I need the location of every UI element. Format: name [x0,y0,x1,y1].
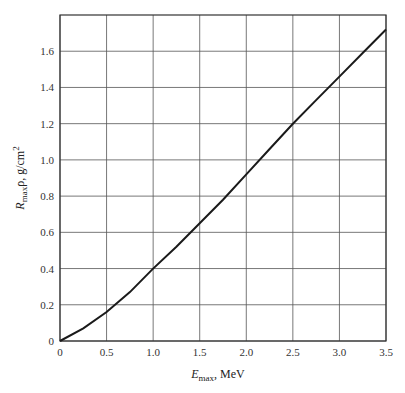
x-tick-label: 0.5 [100,346,114,358]
y-tick-label: 0.8 [40,190,54,202]
y-tick-label: 0.6 [40,226,54,238]
x-axis-ticks: 00.51.01.52.02.53.03.5 [57,346,393,358]
x-tick-label: 1.0 [146,346,160,358]
x-tick-label: 0 [57,346,63,358]
range-energy-chart: 00.51.01.52.02.53.03.5 00.20.40.60.81.01… [0,0,405,393]
grid-lines [60,15,386,341]
x-tick-label: 3.0 [333,346,347,358]
x-tick-label: 1.5 [193,346,207,358]
y-axis-ticks: 00.20.40.60.81.01.21.41.6 [40,45,54,347]
plot-frame [60,15,386,341]
y-tick-label: 1.0 [40,154,54,166]
data-curve [60,30,386,342]
y-axis-label: Rmaxρ, g/cm2 [11,146,29,210]
y-tick-label: 1.6 [40,45,54,57]
y-tick-label: 0.2 [40,299,54,311]
y-tick-label: 1.2 [40,118,54,130]
x-tick-label: 2.0 [239,346,253,358]
x-axis-label: Emax, MeV [190,367,245,383]
y-tick-label: 1.4 [40,81,54,93]
y-tick-label: 0 [49,335,55,347]
x-tick-label: 3.5 [379,346,393,358]
x-tick-label: 2.5 [286,346,300,358]
y-tick-label: 0.4 [40,263,54,275]
